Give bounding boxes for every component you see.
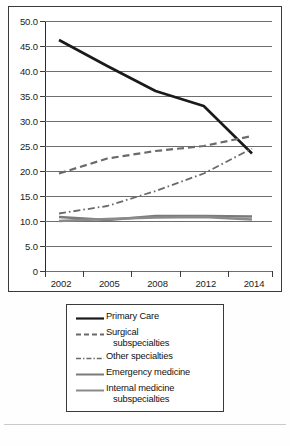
legend-label-line1: Surgical [106, 327, 138, 337]
y-axis-label: 30.0 [20, 116, 38, 127]
series-line [59, 136, 252, 174]
chart-page: 50.045.040.035.030.025.020.015.010.05.00… [0, 0, 290, 446]
legend-label: Surgicalsubspecialties [106, 327, 169, 348]
legend-label-line1: Internal medicine [106, 383, 174, 393]
x-axis-label: 2012 [195, 278, 216, 289]
legend-label-line1: Other specialties [106, 351, 173, 361]
legend-item: Internal medicinesubspecialties [75, 383, 223, 404]
legend-label: Internal medicinesubspecialties [106, 383, 174, 404]
y-axis-label: 35.0 [20, 91, 38, 102]
legend-item: Primary Care [75, 311, 223, 324]
plot-area: 50.045.040.035.030.025.020.015.010.05.00… [45, 21, 272, 271]
series-lines [45, 21, 272, 271]
legend-label-line2: subspecialties [113, 394, 174, 405]
y-axis-label: 20.0 [20, 166, 38, 177]
x-axis-tick [45, 271, 46, 277]
legend-label: Emergency medicine [106, 367, 190, 378]
legend-item: Surgicalsubspecialties [75, 327, 223, 348]
y-axis-label: 45.0 [20, 41, 38, 52]
legend-label-line2: subspecialties [113, 338, 169, 349]
legend-swatch-dashed-icon [75, 329, 105, 340]
y-axis-label: 0 [33, 266, 38, 277]
y-axis-label: 50.0 [20, 16, 38, 27]
x-axis-tick [83, 271, 84, 277]
scan-artifact-top [0, 0, 290, 5]
legend-swatch-dash-dot-icon [75, 353, 105, 364]
legend-swatch-solid-icon [75, 313, 105, 324]
x-axis-label: 2008 [147, 278, 168, 289]
series-line [59, 149, 252, 214]
x-axis-label: 2002 [51, 278, 72, 289]
x-axis-label: 2014 [244, 278, 265, 289]
legend-label: Other specialties [106, 351, 173, 362]
y-axis-label: 10.0 [20, 216, 38, 227]
chart-frame: 50.045.040.035.030.025.020.015.010.05.00… [8, 6, 282, 292]
legend-swatch-solid-icon [75, 385, 105, 396]
legend-item: Other specialties [75, 351, 223, 364]
scan-artifact-bottom [4, 424, 286, 425]
legend-label: Primary Care [106, 311, 159, 322]
x-axis-tick [272, 271, 273, 277]
legend-item: Emergency medicine [75, 367, 223, 380]
series-line [59, 40, 252, 154]
x-axis-ticks [45, 271, 272, 277]
x-axis-label: 2005 [99, 278, 120, 289]
legend-label-line1: Emergency medicine [106, 367, 190, 377]
y-axis-label: 15.0 [20, 191, 38, 202]
y-axis-label: 40.0 [20, 66, 38, 77]
x-axis-tick [228, 271, 229, 277]
y-axis-label: 25.0 [20, 141, 38, 152]
legend-label-line1: Primary Care [106, 311, 159, 321]
x-axis-tick [180, 271, 181, 277]
legend-swatch-solid-icon [75, 369, 105, 380]
y-axis-label: 5.0 [25, 241, 38, 252]
chart-legend: Primary CareSurgicalsubspecialtiesOther … [66, 304, 224, 412]
x-axis-tick [131, 271, 132, 277]
